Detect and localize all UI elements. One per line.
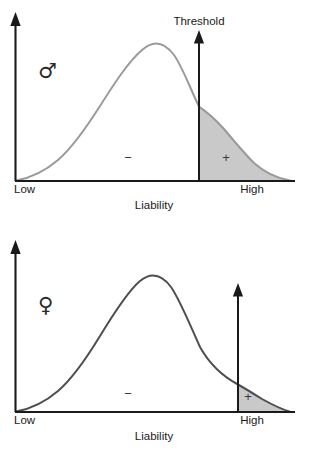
male-chart-svg: Threshold ♂ − + Low High Liability (0, 0, 309, 225)
female-minus-marker: − (124, 386, 132, 401)
panel-female: ♀ − + Low High Liability (0, 225, 309, 450)
male-x-axis-title: Liability (135, 199, 174, 211)
female-y-axis-arrow-icon (10, 240, 20, 254)
female-chart-svg: ♀ − + Low High Liability (0, 225, 309, 450)
female-x-high-label: High (240, 414, 264, 426)
male-threshold-arrow-icon (194, 30, 204, 44)
female-threshold-arrow-icon (233, 283, 243, 297)
male-threshold-label: Threshold (173, 15, 224, 27)
male-y-axis-arrow-icon (10, 12, 20, 26)
panel-male: Threshold ♂ − + Low High Liability (0, 0, 309, 225)
male-minus-marker: − (124, 150, 132, 165)
female-x-axis-title: Liability (135, 430, 174, 442)
male-plus-marker: + (222, 150, 230, 165)
male-x-low-label: Low (14, 183, 36, 195)
liability-threshold-figure: Threshold ♂ − + Low High Liability (0, 0, 309, 450)
female-symbol-glyph: ♀ (38, 293, 53, 317)
female-x-low-label: Low (14, 414, 36, 426)
male-x-high-label: High (240, 183, 264, 195)
female-plus-marker: + (244, 389, 252, 404)
male-symbol-glyph: ♂ (38, 59, 57, 83)
